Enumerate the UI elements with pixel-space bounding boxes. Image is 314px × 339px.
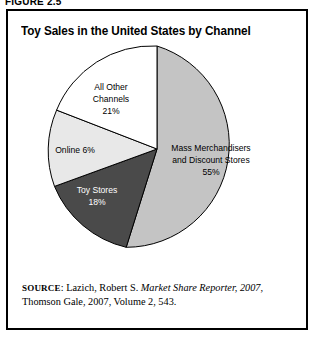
- figure-label: FIGURE 2.5: [5, 0, 61, 7]
- slice-label-online: Online 6%: [55, 145, 95, 155]
- slice-label-mass-merchandisers-line2: and Discount Stores: [172, 155, 249, 165]
- pie-chart-svg: Mass Merchandisers and Discount Stores 5…: [31, 43, 283, 255]
- figure-frame: Toy Sales in the United States by Channe…: [6, 9, 308, 330]
- source-author: Lazich, Robert S.: [66, 282, 141, 293]
- slice-label-toy-stores-line2: 18%: [88, 197, 106, 207]
- pie-chart: Mass Merchandisers and Discount Stores 5…: [8, 43, 306, 258]
- chart-title: Toy Sales in the United States by Channe…: [21, 24, 251, 38]
- slice-label-mass-merchandisers-line3: 55%: [202, 167, 220, 177]
- slice-label-mass-merchandisers-line1: Mass Merchandisers: [171, 143, 250, 153]
- source-citation: SOURCE: Lazich, Robert S. Market Share R…: [22, 281, 294, 308]
- source-rest: Thomson Gale, 2007, Volume 2, 543.: [22, 296, 176, 307]
- source-publication: Market Share Reporter, 2007,: [141, 282, 263, 293]
- slice-label-all-other-line1: All Other: [94, 82, 128, 92]
- slice-label-toy-stores-line1: Toy Stores: [77, 185, 118, 195]
- slice-label-all-other-line2: Channels: [93, 94, 129, 104]
- slice-label-all-other-line3: 21%: [102, 106, 120, 116]
- source-label: SOURCE: [22, 283, 61, 293]
